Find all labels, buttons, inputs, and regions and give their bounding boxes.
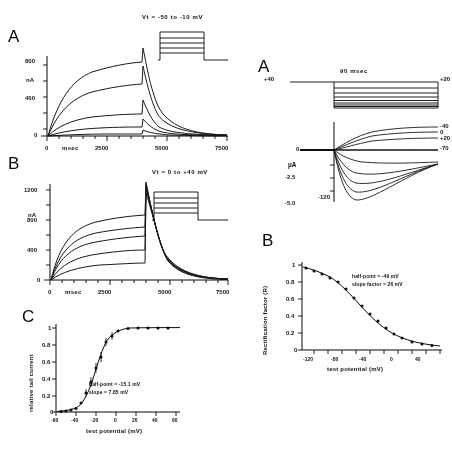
left-c-annotation-slope: slope = 7.85 mV bbox=[89, 390, 128, 395]
left-b-ytick-800: 800 bbox=[27, 217, 37, 223]
left-c-axes bbox=[56, 324, 180, 412]
left-a-xtick-5000: 5000 bbox=[155, 145, 168, 151]
left-a-xlabel: msec bbox=[62, 145, 79, 151]
left-a-protocol-label: Vt = -50 to -10 mV bbox=[142, 14, 203, 20]
left-b-protocol-label: Vt = 0 to +40 mV bbox=[152, 169, 208, 175]
left-a-ticks bbox=[41, 65, 227, 141]
left-b-xtick-0: 0 bbox=[48, 289, 51, 295]
right-a-traces bbox=[300, 127, 438, 200]
right-b-annotation-halfpoint: half-point = -49 mV bbox=[352, 274, 399, 279]
left-b-xtick-7500: 7500 bbox=[216, 289, 229, 295]
left-c-xtick-0: 0 bbox=[114, 418, 117, 423]
left-b-axes bbox=[50, 184, 228, 280]
left-b-xtick-2500: 2500 bbox=[98, 289, 111, 295]
right-a-trace-label-p20: +20 bbox=[440, 135, 450, 141]
left-b-xlabel: msec bbox=[65, 289, 82, 295]
right-a-ytick-0: 0 bbox=[296, 146, 299, 152]
right-a-ticks bbox=[330, 150, 334, 191]
left-c-ytick-06: 0.6 bbox=[42, 359, 50, 365]
left-c-ylabel: relative tail current bbox=[28, 354, 34, 412]
right-a-trace-label-n70: -70 bbox=[440, 145, 449, 151]
left-a-xtick-2500: 2500 bbox=[95, 145, 108, 151]
figure-canvas: A Vt = -50 to -10 mV bbox=[0, 0, 452, 456]
left-b-traces bbox=[51, 182, 228, 280]
right-a-step-label: +20 bbox=[440, 76, 450, 82]
left-c-ytick-08: 0.8 bbox=[42, 342, 50, 348]
left-c-xtick-n40: -40 bbox=[71, 418, 78, 423]
right-b-ytick-02: 0.2 bbox=[286, 330, 294, 336]
right-a-axes bbox=[300, 122, 438, 202]
left-c-ytick-04: 0.4 bbox=[42, 376, 50, 382]
right-b-xtick-40: 40 bbox=[415, 357, 421, 362]
right-a-annotation-n120: -120 bbox=[318, 194, 330, 200]
left-c-data-points bbox=[60, 327, 170, 414]
right-b-ytick-04: 0.4 bbox=[286, 313, 294, 319]
right-b-annotation-slope: slope factor = 26 mV bbox=[352, 282, 403, 287]
left-c-ytick-0: 0 bbox=[50, 409, 53, 415]
left-c-xtick-40: 40 bbox=[152, 418, 158, 423]
left-a-axes bbox=[47, 56, 228, 136]
left-a-protocol-inset bbox=[158, 32, 228, 60]
right-b-ylabel: Rectification factor (R) bbox=[262, 286, 268, 355]
panel-letter-right-b: B bbox=[262, 232, 273, 249]
left-a-xtick-0: 0 bbox=[45, 145, 48, 151]
right-a-plot bbox=[252, 60, 452, 205]
left-a-traces bbox=[48, 48, 227, 136]
right-b-xtick-n80: -80 bbox=[331, 357, 338, 362]
right-a-ylabel: µA bbox=[288, 162, 296, 169]
left-b-ytick-400: 400 bbox=[27, 247, 37, 253]
left-c-xtick-20: 20 bbox=[132, 418, 138, 423]
right-a-protocol-inset bbox=[290, 82, 438, 108]
left-b-ytick-0: 0 bbox=[37, 277, 40, 283]
right-b-ytick-08: 0.8 bbox=[286, 279, 294, 285]
left-b-ytick-1200: 1200 bbox=[24, 187, 37, 193]
left-c-xtick-n20: -20 bbox=[91, 418, 98, 423]
left-c-xlabel: test potential (mV) bbox=[86, 428, 142, 434]
left-b-ticks bbox=[44, 190, 228, 285]
left-c-ytick-02: 0.2 bbox=[42, 393, 50, 399]
right-b-xtick-n40: -40 bbox=[359, 357, 366, 362]
left-c-fit-curve bbox=[57, 328, 180, 412]
left-b-xtick-5000: 5000 bbox=[158, 289, 171, 295]
right-b-ytick-06: 0.6 bbox=[286, 296, 294, 302]
right-a-ytick-n50: -5.0 bbox=[285, 200, 295, 206]
left-a-ytick-800: 800 bbox=[25, 58, 35, 64]
left-a-ytick-400: 400 bbox=[25, 95, 35, 101]
right-b-ytick-1: 1 bbox=[292, 262, 295, 268]
right-b-xtick-0: 0 bbox=[390, 357, 393, 362]
left-a-plot bbox=[0, 22, 232, 162]
left-a-xtick-7500: 7500 bbox=[215, 145, 228, 151]
left-b-plot bbox=[0, 176, 232, 306]
left-a-ytick-0: 0 bbox=[34, 132, 37, 138]
left-c-ticks bbox=[52, 328, 176, 416]
left-c-xtick-60: 60 bbox=[172, 418, 178, 423]
panel-letter-left-b: B bbox=[8, 155, 19, 172]
right-a-holding-label: +40 bbox=[264, 76, 274, 82]
left-c-xtick-n60: -60 bbox=[51, 418, 58, 423]
right-b-xtick-n120: -120 bbox=[303, 357, 313, 362]
left-b-protocol-inset bbox=[152, 192, 228, 220]
right-a-ytick-n25: -2.5 bbox=[285, 174, 295, 180]
right-b-xlabel: test potential (mV) bbox=[327, 366, 383, 372]
left-c-annotation-halfpoint: half-point = -15.1 mV bbox=[89, 382, 140, 387]
left-a-ylabel: nA bbox=[26, 77, 34, 83]
left-c-ytick-1: 1 bbox=[48, 325, 51, 331]
right-b-ytick-0: 0 bbox=[294, 347, 297, 353]
